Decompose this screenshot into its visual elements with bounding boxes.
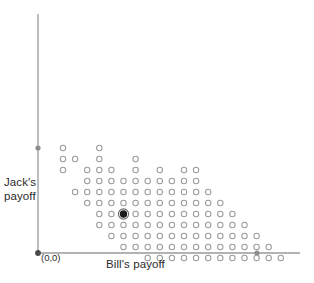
scatter-point[interactable]: [133, 156, 138, 161]
highlighted-point[interactable]: [120, 211, 126, 217]
scatter-point[interactable]: [109, 200, 114, 205]
scatter-point[interactable]: [133, 244, 138, 249]
scatter-point[interactable]: [218, 233, 223, 238]
scatter-point[interactable]: [60, 145, 65, 150]
scatter-point[interactable]: [206, 200, 211, 205]
scatter-point[interactable]: [133, 233, 138, 238]
scatter-point[interactable]: [181, 233, 186, 238]
scatter-point[interactable]: [218, 244, 223, 249]
scatter-point[interactable]: [109, 167, 114, 172]
scatter-point[interactable]: [133, 211, 138, 216]
scatter-point[interactable]: [254, 244, 259, 249]
scatter-point[interactable]: [157, 211, 162, 216]
scatter-point[interactable]: [157, 244, 162, 249]
scatter-point[interactable]: [193, 178, 198, 183]
scatter-point[interactable]: [145, 189, 150, 194]
scatter-point[interactable]: [230, 244, 235, 249]
scatter-point[interactable]: [85, 200, 90, 205]
scatter-point[interactable]: [218, 200, 223, 205]
scatter-point[interactable]: [85, 189, 90, 194]
scatter-point[interactable]: [242, 222, 247, 227]
scatter-point[interactable]: [121, 189, 126, 194]
scatter-point[interactable]: [181, 244, 186, 249]
scatter-point[interactable]: [97, 222, 102, 227]
scatter-point[interactable]: [193, 189, 198, 194]
scatter-point[interactable]: [157, 222, 162, 227]
scatter-point[interactable]: [109, 189, 114, 194]
scatter-point[interactable]: [97, 211, 102, 216]
scatter-point[interactable]: [278, 255, 283, 260]
scatter-point[interactable]: [109, 222, 114, 227]
scatter-point[interactable]: [85, 178, 90, 183]
scatter-point[interactable]: [121, 233, 126, 238]
scatter-point[interactable]: [145, 244, 150, 249]
scatter-point[interactable]: [121, 178, 126, 183]
scatter-point[interactable]: [72, 156, 77, 161]
scatter-point[interactable]: [145, 233, 150, 238]
scatter-point[interactable]: [133, 200, 138, 205]
scatter-point[interactable]: [157, 189, 162, 194]
scatter-point[interactable]: [72, 189, 77, 194]
scatter-point[interactable]: [230, 255, 235, 260]
scatter-point[interactable]: [230, 211, 235, 216]
scatter-point[interactable]: [97, 167, 102, 172]
scatter-point[interactable]: [193, 222, 198, 227]
scatter-point[interactable]: [145, 211, 150, 216]
scatter-point[interactable]: [97, 200, 102, 205]
scatter-point[interactable]: [169, 178, 174, 183]
scatter-point[interactable]: [193, 233, 198, 238]
scatter-point[interactable]: [157, 200, 162, 205]
scatter-point[interactable]: [169, 189, 174, 194]
scatter-point[interactable]: [145, 178, 150, 183]
scatter-point[interactable]: [157, 167, 162, 172]
scatter-point[interactable]: [133, 178, 138, 183]
scatter-point[interactable]: [181, 178, 186, 183]
scatter-point[interactable]: [133, 167, 138, 172]
scatter-point[interactable]: [218, 211, 223, 216]
scatter-point[interactable]: [266, 255, 271, 260]
scatter-point[interactable]: [254, 233, 259, 238]
scatter-point[interactable]: [109, 211, 114, 216]
scatter-point[interactable]: [169, 211, 174, 216]
scatter-point[interactable]: [97, 145, 102, 150]
scatter-point[interactable]: [169, 244, 174, 249]
scatter-point[interactable]: [157, 178, 162, 183]
scatter-point[interactable]: [230, 233, 235, 238]
scatter-point[interactable]: [193, 200, 198, 205]
scatter-point[interactable]: [121, 222, 126, 227]
scatter-point[interactable]: [181, 189, 186, 194]
scatter-point[interactable]: [60, 156, 65, 161]
scatter-point[interactable]: [181, 222, 186, 227]
scatter-point[interactable]: [193, 244, 198, 249]
scatter-point[interactable]: [206, 222, 211, 227]
scatter-point[interactable]: [242, 244, 247, 249]
scatter-point[interactable]: [109, 178, 114, 183]
scatter-point[interactable]: [85, 167, 90, 172]
scatter-point[interactable]: [169, 222, 174, 227]
scatter-point[interactable]: [157, 233, 162, 238]
scatter-point[interactable]: [242, 233, 247, 238]
scatter-point[interactable]: [97, 156, 102, 161]
scatter-point[interactable]: [206, 233, 211, 238]
scatter-point[interactable]: [121, 200, 126, 205]
scatter-point[interactable]: [193, 167, 198, 172]
scatter-point[interactable]: [266, 244, 271, 249]
scatter-point[interactable]: [181, 167, 186, 172]
scatter-point[interactable]: [169, 233, 174, 238]
scatter-point[interactable]: [97, 178, 102, 183]
scatter-point[interactable]: [97, 189, 102, 194]
scatter-point[interactable]: [181, 211, 186, 216]
scatter-point[interactable]: [169, 200, 174, 205]
scatter-point[interactable]: [242, 255, 247, 260]
scatter-point[interactable]: [109, 233, 114, 238]
scatter-point[interactable]: [60, 167, 65, 172]
scatter-point[interactable]: [193, 211, 198, 216]
scatter-point[interactable]: [145, 200, 150, 205]
scatter-point[interactable]: [218, 222, 223, 227]
scatter-point[interactable]: [230, 222, 235, 227]
scatter-point[interactable]: [121, 244, 126, 249]
scatter-point[interactable]: [145, 222, 150, 227]
scatter-point[interactable]: [218, 255, 223, 260]
scatter-point[interactable]: [206, 189, 211, 194]
scatter-point[interactable]: [206, 211, 211, 216]
